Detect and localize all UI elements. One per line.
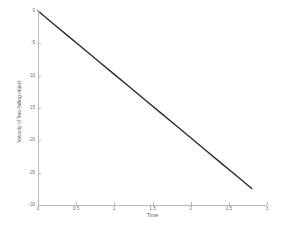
- x-tick: [191, 202, 192, 205]
- y-tick: [38, 43, 41, 44]
- x-tick: [229, 202, 230, 205]
- x-tick: [76, 202, 77, 205]
- figure-canvas: 00.511.522.53 0-5-10-15-20-25-30 Time Ve…: [0, 0, 284, 229]
- y-tick: [38, 11, 41, 12]
- velocity-line: [38, 11, 252, 188]
- x-tick: [114, 202, 115, 205]
- y-tick: [38, 205, 41, 206]
- y-tick-label: -30: [18, 202, 35, 208]
- x-axis-label: Time: [38, 212, 267, 219]
- y-tick: [38, 140, 41, 141]
- x-tick: [153, 202, 154, 205]
- x-tick: [267, 202, 268, 205]
- y-tick-label: -5: [18, 40, 35, 46]
- y-axis-label: Velocity of free-falling object: [16, 52, 23, 172]
- y-tick: [38, 108, 41, 109]
- line-series-svg: [38, 11, 267, 205]
- y-tick-label: 0: [18, 8, 35, 14]
- y-tick: [38, 76, 41, 77]
- plot-area: [38, 11, 267, 205]
- y-tick: [38, 173, 41, 174]
